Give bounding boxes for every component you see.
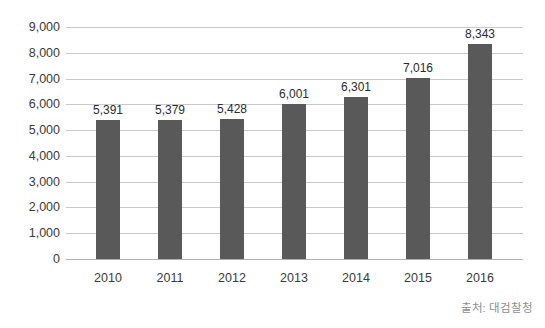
y-axis-tick-label: 4,000 bbox=[0, 150, 60, 163]
plot-area bbox=[66, 27, 523, 259]
bar-value-label: 6,301 bbox=[321, 81, 391, 93]
bar bbox=[406, 78, 430, 259]
bar-value-label: 8,343 bbox=[445, 28, 515, 40]
bar bbox=[158, 120, 182, 259]
bar-value-label: 5,379 bbox=[135, 104, 205, 116]
y-axis-tick-label: 0 bbox=[0, 253, 60, 266]
y-axis-tick-label: 3,000 bbox=[0, 176, 60, 189]
x-axis-tick-label: 2011 bbox=[135, 272, 205, 285]
gridline-8000 bbox=[66, 53, 523, 54]
bar-chart: 9,0008,0007,0006,0005,0004,0003,0002,000… bbox=[0, 0, 545, 328]
bar-value-label: 5,391 bbox=[73, 104, 143, 116]
y-axis-tick-label: 5,000 bbox=[0, 124, 60, 137]
bar bbox=[220, 119, 244, 259]
x-axis-tick-label: 2012 bbox=[197, 272, 267, 285]
x-axis-tick-label: 2015 bbox=[383, 272, 453, 285]
source-note: 출처: 대검찰청 bbox=[461, 299, 533, 315]
x-axis-tick-label: 2014 bbox=[321, 272, 391, 285]
y-axis-tick-label: 2,000 bbox=[0, 201, 60, 214]
bar bbox=[96, 120, 120, 259]
bar bbox=[282, 104, 306, 259]
x-axis-tick-label: 2010 bbox=[73, 272, 143, 285]
bar-value-label: 6,001 bbox=[259, 88, 329, 100]
x-axis-tick-label: 2016 bbox=[445, 272, 515, 285]
bar bbox=[344, 97, 368, 259]
y-axis-tick-label: 7,000 bbox=[0, 73, 60, 86]
bar-value-label: 5,428 bbox=[197, 103, 267, 115]
gridline-7000 bbox=[66, 79, 523, 80]
y-axis-tick-label: 9,000 bbox=[0, 21, 60, 34]
y-axis-tick-label: 6,000 bbox=[0, 98, 60, 111]
bar-value-label: 7,016 bbox=[383, 62, 453, 74]
y-axis-tick-label: 1,000 bbox=[0, 227, 60, 240]
x-axis-tick-label: 2013 bbox=[259, 272, 329, 285]
gridline-0 bbox=[66, 259, 523, 260]
y-axis-tick-label: 8,000 bbox=[0, 47, 60, 60]
bar bbox=[468, 44, 492, 259]
